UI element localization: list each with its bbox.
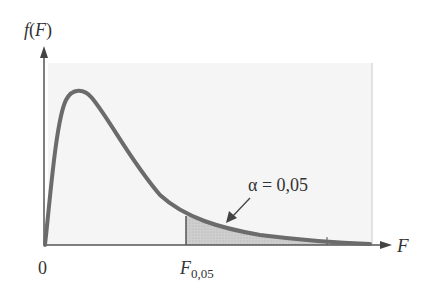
critical-value-label: F0,05	[179, 258, 214, 281]
y-axis-arrow-icon	[40, 46, 48, 58]
alpha-annotation: α = 0,05	[248, 175, 308, 195]
x-axis-label: F	[396, 235, 409, 256]
background-panel	[48, 63, 372, 245]
f-distribution-chart: f(F) F 0 F0,05 α = 0,05	[0, 0, 439, 299]
origin-label: 0	[38, 258, 47, 278]
x-axis-arrow-icon	[380, 241, 392, 249]
y-axis-label: f(F)	[24, 20, 52, 41]
